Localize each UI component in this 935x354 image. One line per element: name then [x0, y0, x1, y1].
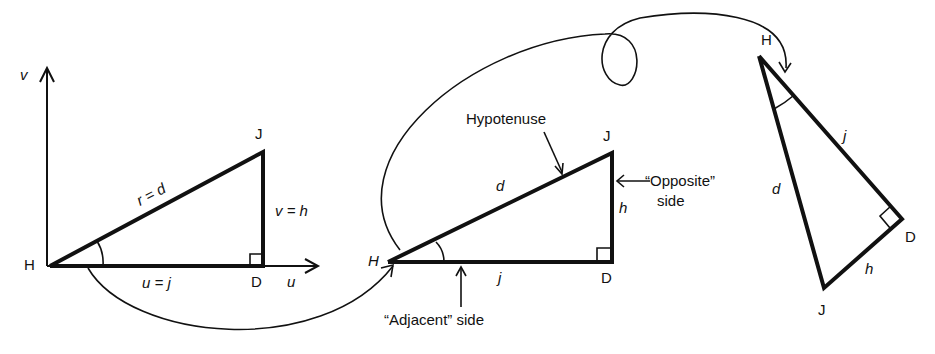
- vertex-j-label: J: [255, 125, 263, 142]
- middle-triangle: [388, 153, 612, 262]
- hypotenuse-side-label: d: [496, 177, 505, 194]
- opposite-side-label: h: [865, 260, 873, 277]
- vertex-j-label: J: [818, 301, 826, 318]
- middle-diagram: H J D d h j Hypotenuse “Opposite” side “…: [368, 110, 715, 328]
- v-axis-label: v: [20, 66, 29, 83]
- right-angle-marker: [880, 206, 891, 228]
- arrow-middle-to-right: [381, 13, 791, 250]
- angle-arc: [774, 96, 793, 109]
- vertex-d-label: D: [905, 228, 916, 245]
- curved-arrow: [88, 266, 393, 329]
- hypotenuse-side-label: d: [772, 180, 781, 197]
- vertex-h-label: H: [368, 252, 379, 269]
- looping-arrow: [381, 13, 786, 250]
- looping-arrowhead-icon: [779, 62, 791, 72]
- u-axis-label: u: [287, 273, 296, 290]
- hypotenuse-pointer: [544, 132, 562, 172]
- adjacent-callout: “Adjacent” side: [384, 311, 484, 328]
- curved-arrowhead-icon: [381, 265, 393, 277]
- left-diagram: v H J D u r = d v = h u = j: [20, 66, 318, 291]
- opposite-side-label: h: [619, 199, 627, 216]
- vertex-h-label: H: [761, 31, 772, 48]
- hypotenuse-callout: Hypotenuse: [466, 110, 546, 127]
- adjacent-side-label: j: [496, 269, 502, 286]
- angle-arc: [436, 242, 444, 262]
- opposite-callout-line2: side: [657, 192, 685, 209]
- horizontal-side-label: u = j: [142, 274, 171, 291]
- vertex-d-label: D: [251, 273, 262, 290]
- vertex-h-label: H: [24, 256, 35, 273]
- right-diagram: H D J d j h: [759, 31, 916, 318]
- left-triangle: [50, 152, 263, 266]
- triangle-diagram: v H J D u r = d v = h u = j H J D d h j …: [0, 0, 935, 354]
- vertex-d-label: D: [601, 269, 612, 286]
- right-triangle: [759, 56, 902, 288]
- opposite-callout-line1: “Opposite”: [645, 172, 715, 189]
- angle-arc: [97, 241, 103, 266]
- vertex-j-label: J: [603, 127, 611, 144]
- right-angle-marker: [597, 248, 612, 262]
- vertical-side-label: v = h: [275, 202, 308, 219]
- arrow-left-to-middle: [88, 265, 393, 329]
- adjacent-side-label: j: [841, 127, 847, 144]
